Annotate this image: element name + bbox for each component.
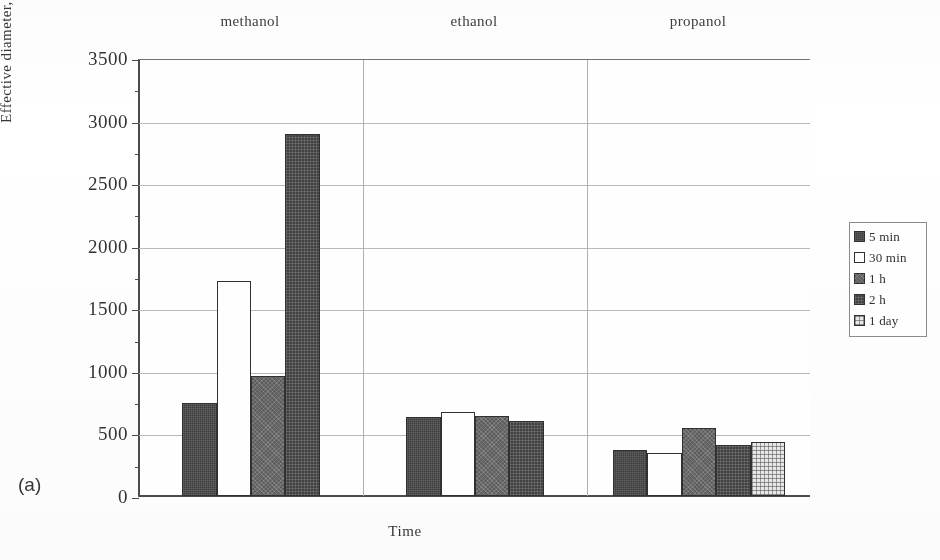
dark-dotted-swatch (854, 294, 865, 305)
panel-label: (a) (18, 474, 41, 496)
white-swatch (854, 252, 865, 263)
mid-gray-swatch (854, 273, 865, 284)
legend-item-1h: 1 h (854, 268, 922, 289)
bar-propanol-5min (613, 450, 647, 496)
y-tick-label: 3000 (88, 111, 128, 133)
y-tick-label: 3500 (88, 48, 128, 70)
y-axis-minor-tick (135, 91, 139, 92)
bar-methanol-2h (285, 134, 319, 496)
x-axis-title: Time (0, 523, 810, 540)
bar-ethanol-2h (509, 421, 543, 496)
legend-item-1day: 1 day (854, 310, 922, 331)
y-axis-minor-tick (135, 216, 139, 217)
bar-ethanol-30min (441, 412, 475, 496)
plot-top-border (139, 59, 810, 60)
y-axis-tick (132, 435, 139, 436)
y-axis-minor-tick (135, 404, 139, 405)
y-axis-minor-tick (135, 342, 139, 343)
bar-propanol-30min (647, 453, 681, 496)
figure-panel-a: (a) Effective diameter, nm 3500300025002… (0, 0, 940, 560)
y-axis-tick (132, 185, 139, 186)
y-axis-tick (132, 498, 139, 499)
group-label-methanol: methanol (220, 13, 279, 30)
legend-label: 1 day (869, 313, 899, 329)
gridline (139, 248, 810, 249)
light-dotted-swatch (854, 315, 865, 326)
gridline (139, 123, 810, 124)
y-axis-tick (132, 60, 139, 61)
legend: 5 min30 min1 h2 h1 day (849, 222, 927, 337)
bar-propanol-1h (682, 428, 716, 496)
bar-methanol-1h (251, 376, 285, 496)
y-axis-line (138, 60, 140, 496)
y-axis-tick (132, 373, 139, 374)
y-axis-tick (132, 310, 139, 311)
legend-label: 2 h (869, 292, 886, 308)
category-separator (363, 60, 364, 496)
legend-item-30min: 30 min (854, 247, 922, 268)
category-separator (587, 60, 588, 496)
bar-methanol-5min (182, 403, 216, 496)
y-axis-tick (132, 123, 139, 124)
y-tick-label: 2000 (88, 236, 128, 258)
gridline (139, 185, 810, 186)
y-tick-label: 2500 (88, 173, 128, 195)
bar-propanol-1day (751, 442, 785, 496)
bar-ethanol-5min (406, 417, 440, 496)
y-tick-label: 0 (118, 486, 128, 508)
y-axis-minor-tick (135, 279, 139, 280)
legend-label: 1 h (869, 271, 886, 287)
dark-hatch-swatch (854, 231, 865, 242)
y-axis-minor-tick (135, 467, 139, 468)
y-axis-tick-labels: 3500300025002000150010005000 (62, 59, 128, 497)
legend-item-5min: 5 min (854, 226, 922, 247)
bar-propanol-2h (716, 445, 750, 496)
y-tick-label: 500 (98, 423, 128, 445)
group-label-propanol: propanol (670, 13, 727, 30)
plot-area (138, 59, 810, 497)
bar-ethanol-1h (475, 416, 509, 496)
group-label-ethanol: ethanol (451, 13, 498, 30)
y-axis-tick (132, 248, 139, 249)
y-axis-minor-tick (135, 154, 139, 155)
bar-methanol-30min (217, 281, 251, 496)
legend-label: 30 min (869, 250, 907, 266)
y-tick-label: 1500 (88, 298, 128, 320)
legend-item-2h: 2 h (854, 289, 922, 310)
y-axis-title: Effective diameter, nm (0, 0, 15, 170)
y-tick-label: 1000 (88, 361, 128, 383)
legend-label: 5 min (869, 229, 900, 245)
